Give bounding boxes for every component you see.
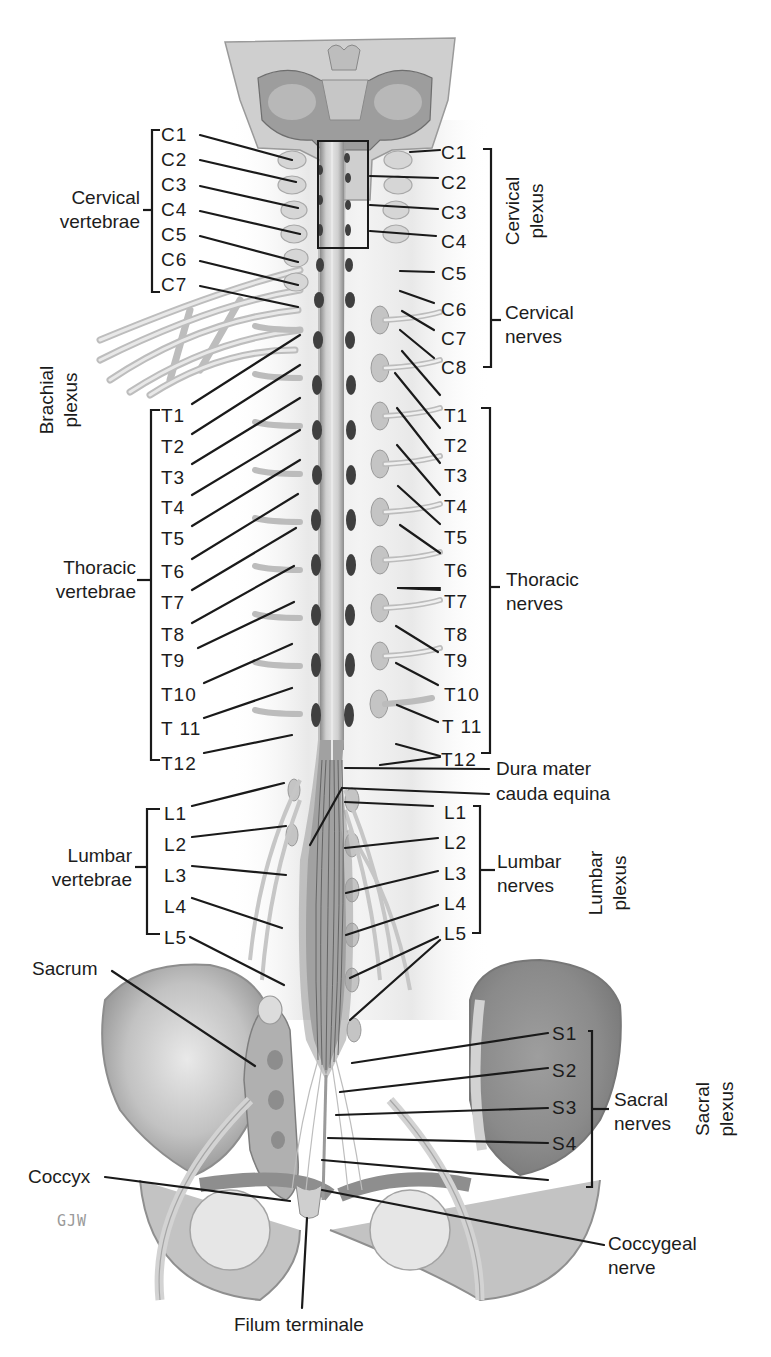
label-right-c6: C6 [441,299,467,320]
label-right-t11: T 11 [442,716,482,737]
label-right-l1: L1 [444,802,467,823]
group-thoracic-vertebrae: Thoracic vertebrae [38,556,136,604]
label-left-t12: T12 [161,753,197,774]
label-left-l2: L2 [164,834,187,855]
label-left-c5: C5 [161,224,187,245]
label-left-l4: L4 [164,896,187,917]
label-right-l2: L2 [444,832,467,853]
label-coccyx: Coccyx [28,1166,90,1187]
label-right-t5: T5 [444,527,468,548]
group-brachial-plexus: Brachial plexus [35,360,85,440]
label-left-t8: T8 [161,624,185,645]
label-left-t11: T 11 [161,718,201,739]
label-filum-terminale: Filum terminale [234,1314,364,1335]
label-right-t3: T3 [444,465,468,486]
label-right-t2: T2 [444,435,468,456]
label-right-t1: T1 [444,405,468,426]
label-right-c2: C2 [441,172,467,193]
group-sacral-plexus: Sacral plexus [691,1069,741,1149]
label-right-t12: T12 [441,749,477,770]
label-left-c7: C7 [161,274,187,295]
label-left-t5: T5 [161,528,185,549]
label-left-c4: C4 [161,199,187,220]
artist-signature: GJW [57,1212,87,1230]
label-left-t1: T1 [161,405,185,426]
group-thoracic-nerves: Thoracic nerves [506,568,579,616]
label-left-t2: T2 [161,436,185,457]
group-lumbar-nerves: Lumbar nerves [497,850,561,898]
label-coccygeal-nerve: Coccygeal nerve [608,1232,697,1280]
label-left-t6: T6 [161,561,185,582]
label-right-l5: L5 [444,923,467,944]
label-left-c2: C2 [161,149,187,170]
group-cervical-nerves: Cervical nerves [505,301,574,349]
group-lumbar-vertebrae: Lumbar vertebrae [36,844,132,892]
label-sacrum: Sacrum [32,958,97,979]
label-left-c1: C1 [161,124,187,145]
label-right-s2: S2 [552,1060,577,1081]
label-left-t9: T9 [161,650,185,671]
label-dura-mater: Dura mater [496,758,591,779]
label-right-l3: L3 [444,863,467,884]
label-right-c8: C8 [441,357,467,378]
label-cauda-equina: cauda equina [496,783,610,804]
label-right-l4: L4 [444,893,467,914]
label-left-t3: T3 [161,467,185,488]
group-lumbar-plexus: Lumbar plexus [584,843,634,923]
label-right-c7: C7 [441,328,467,349]
label-right-t8: T8 [444,624,468,645]
label-right-t6: T6 [444,560,468,581]
label-left-c6: C6 [161,249,187,270]
label-left-l3: L3 [164,865,187,886]
label-right-t10: T10 [444,684,480,705]
label-right-s4: S4 [552,1133,577,1154]
label-right-t4: T4 [444,496,468,517]
label-right-c5: C5 [441,263,467,284]
label-right-c1: C1 [441,142,467,163]
group-cervical-vertebrae: Cervical vertebrae [36,186,140,234]
label-left-t4: T4 [161,497,185,518]
label-right-t7: T7 [444,591,468,612]
label-left-c3: C3 [161,174,187,195]
group-cervical-plexus: Cervical plexus [501,166,551,256]
group-sacral-nerves: Sacral nerves [614,1088,671,1136]
label-left-t10: T10 [161,684,197,705]
label-left-l5: L5 [164,927,187,948]
label-right-s3: S3 [552,1097,577,1118]
label-right-s1: S1 [552,1023,577,1044]
spinal-nerves-diagram: C1 C2 C3 C4 C5 C6 C7 T1 T2 T3 T4 T5 T6 T… [0,0,771,1357]
label-right-t9: T9 [444,650,468,671]
label-left-l1: L1 [164,803,187,824]
label-right-c4: C4 [441,231,467,252]
label-right-c3: C3 [441,202,467,223]
label-left-t7: T7 [161,592,185,613]
